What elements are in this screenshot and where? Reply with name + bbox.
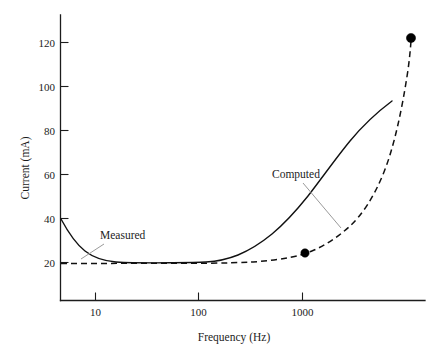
annotation-leader-measured <box>81 244 104 259</box>
y-axis-title: Current (mA) <box>19 136 32 199</box>
y-tick-label-20: 20 <box>44 257 56 269</box>
y-tick-label-60: 60 <box>44 169 56 181</box>
x-axis-tick-labels: 10 100 1000 <box>90 306 314 318</box>
y-tick-label-100: 100 <box>39 81 56 93</box>
annotation-label-measured: Measured <box>100 229 146 241</box>
x-axis-ticks <box>96 293 303 301</box>
y-tick-label-40: 40 <box>44 213 56 225</box>
y-tick-label-80: 80 <box>44 125 56 137</box>
marker-computed-peak <box>406 33 415 42</box>
x-tick-label-10: 10 <box>90 306 102 318</box>
y-axis-tick-labels: 120 100 80 60 40 20 <box>39 37 56 269</box>
annotation-label-computed: Computed <box>272 168 320 181</box>
y-tick-label-120: 120 <box>39 37 56 49</box>
x-axis-title: Frequency (Hz) <box>198 331 271 344</box>
axis-frame <box>61 15 426 301</box>
chart-plot: 120 100 80 60 40 20 10 100 1000 Frequenc… <box>0 0 438 355</box>
x-tick-label-1000: 1000 <box>292 306 315 318</box>
marker-computed-1000hz <box>301 249 309 257</box>
x-tick-label-100: 100 <box>190 306 207 318</box>
figure-container: 120 100 80 60 40 20 10 100 1000 Frequenc… <box>0 0 438 355</box>
data-point-markers <box>301 33 416 257</box>
annotation-leader-computed <box>303 183 341 228</box>
